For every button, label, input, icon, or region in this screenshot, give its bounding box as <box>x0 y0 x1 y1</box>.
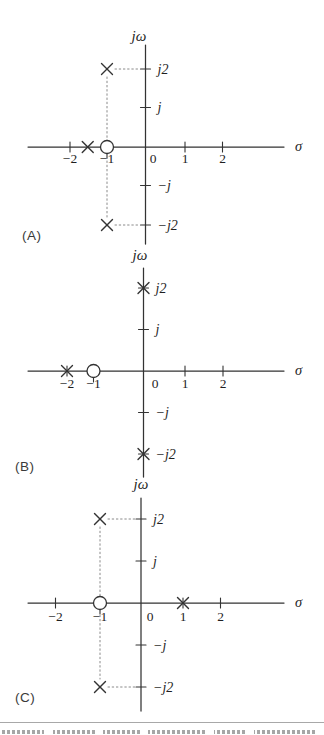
x-tick-label: 2 <box>220 376 227 391</box>
cropped-caption-text-fragment <box>0 730 318 734</box>
pole-zero-plot-C: −2−112j2j−j−j2jωσ0(C) <box>15 476 303 711</box>
y-tick-label: j <box>154 322 160 337</box>
x-tick-label: −2 <box>63 151 77 166</box>
y-tick-label: j <box>151 554 157 569</box>
sigma-axis-label: σ <box>295 138 303 154</box>
figure-page: −2−112j2j−j−j2jωσ0(A)−2−112j2j−j−j2jωσ0(… <box>0 0 324 735</box>
x-tick-label: −2 <box>48 609 62 624</box>
pole-marker <box>95 682 106 693</box>
x-tick-label: −1 <box>86 376 100 391</box>
pole-zero-figure-svg: −2−112j2j−j−j2jωσ0(A)−2−112j2j−j−j2jωσ0(… <box>0 0 324 722</box>
zero-marker <box>94 597 107 610</box>
panel-label: (A) <box>22 228 42 243</box>
panel-label: (C) <box>15 690 35 705</box>
y-tick-label: j2 <box>156 62 169 77</box>
zero-marker <box>101 141 114 154</box>
y-tick-label: j2 <box>151 512 164 527</box>
y-tick-label: −j2 <box>156 447 176 462</box>
origin-label: 0 <box>152 376 159 391</box>
y-tick-label: −j2 <box>153 680 173 695</box>
sigma-axis-label: σ <box>295 362 303 378</box>
x-tick-label: 1 <box>180 609 187 624</box>
x-tick-label: 1 <box>182 376 189 391</box>
y-tick-label: j <box>156 100 162 115</box>
jomega-axis-label: jω <box>131 247 148 263</box>
pole-marker <box>102 220 113 231</box>
origin-label: 0 <box>150 151 157 166</box>
panel-label: (B) <box>15 459 35 474</box>
jomega-axis-label: jω <box>130 28 147 44</box>
pole-marker <box>95 514 106 525</box>
pole-zero-plot-B: −2−112j2j−j−j2jωσ0(B) <box>15 247 303 477</box>
origin-label: 0 <box>147 609 154 624</box>
cropped-caption <box>0 722 324 735</box>
pole-zero-plot-A: −2−112j2j−j−j2jωσ0(A) <box>22 28 303 244</box>
y-tick-label: −j <box>156 405 169 420</box>
zero-marker <box>87 365 100 378</box>
x-tick-label: −2 <box>60 376 74 391</box>
y-tick-label: −j <box>158 178 171 193</box>
sigma-axis-label: σ <box>295 594 303 610</box>
x-tick-label: 2 <box>219 151 226 166</box>
y-tick-label: −j <box>153 638 166 653</box>
y-tick-label: j2 <box>154 281 167 296</box>
x-tick-label: 1 <box>182 151 189 166</box>
y-tick-label: −j2 <box>158 218 178 233</box>
x-tick-label: 2 <box>217 609 224 624</box>
jomega-axis-label: jω <box>132 476 149 492</box>
pole-marker <box>102 64 113 75</box>
